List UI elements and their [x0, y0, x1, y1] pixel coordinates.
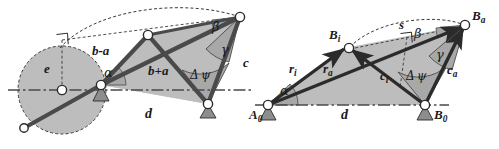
label-gamma-right: γ	[436, 48, 444, 61]
label-frame-d-left: d	[145, 107, 152, 121]
label-alpha-left: α	[104, 66, 113, 79]
label-ci-sub: i	[386, 75, 389, 85]
joint-left-top	[143, 30, 152, 39]
joint-left-b0	[203, 99, 212, 108]
joint-left-top-right	[235, 12, 244, 21]
label-ba-base: B	[472, 8, 481, 23]
right-diagram-group	[255, 19, 470, 120]
label-b-minus-a: b-a	[92, 44, 109, 57]
joint-bi	[344, 43, 353, 52]
label-chord-s: s	[399, 18, 404, 31]
label-ca-sub: a	[453, 69, 458, 79]
label-b0-sub: 0	[443, 114, 448, 124]
label-bi-sub: i	[338, 34, 341, 44]
label-point-bi: Bi	[329, 28, 340, 44]
label-ri-sub: i	[294, 68, 297, 78]
label-beta-left: β	[212, 20, 220, 33]
label-point-b0: B0	[434, 108, 447, 124]
label-ba-sub: a	[481, 15, 486, 25]
label-vector-ca: ca	[447, 63, 457, 79]
label-delta-psi-left-delta: Δ	[190, 69, 199, 81]
joint-ba	[460, 20, 469, 29]
label-vector-ci: ci	[380, 69, 388, 85]
label-delta-psi-right-psi: ψ	[417, 70, 426, 82]
label-frame-d-right: d	[341, 108, 348, 122]
label-beta-right: β	[414, 27, 422, 40]
label-vector-ri: ri	[289, 62, 297, 78]
joint-left-a0	[96, 80, 105, 89]
label-alpha-right: α	[280, 84, 289, 97]
label-delta-psi-left-psi: ψ	[201, 69, 210, 81]
label-b-plus-a: b+a	[148, 64, 168, 77]
label-a0-base: A	[249, 107, 258, 122]
label-point-ba: Ba	[472, 9, 485, 25]
label-coupler-c-left: c	[243, 56, 249, 69]
label-ra-sub: a	[328, 68, 333, 78]
joint-a0	[263, 100, 272, 109]
diagram-canvas: e b-a b+a α β γ Δ ψ c d A0 B0 Bi Ba ri r…	[0, 0, 499, 149]
label-delta-psi-right-delta: Δ	[406, 70, 415, 82]
label-gamma-left: γ	[221, 43, 229, 56]
joint-b0	[420, 100, 429, 109]
label-b0-base: B	[434, 107, 443, 122]
label-a0-sub: 0	[258, 114, 263, 124]
joint-left-pivot-center	[57, 85, 66, 94]
label-vector-ra: ra	[323, 62, 333, 78]
joint-left-crank-end	[20, 124, 28, 132]
label-eccentricity-e: e	[44, 62, 50, 75]
label-point-a0: A0	[249, 108, 262, 124]
label-bi-base: B	[329, 27, 338, 42]
